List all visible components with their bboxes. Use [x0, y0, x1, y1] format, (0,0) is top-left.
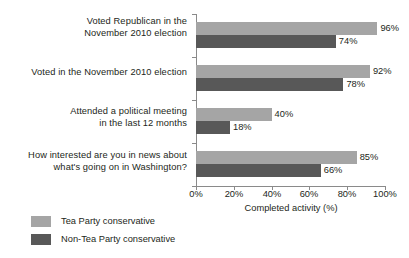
- legend-label: Tea Party conservative: [61, 216, 155, 226]
- category-label-3-line-1: what's going on in Washington?: [0, 161, 187, 173]
- x-axis-title: Completed activity (%): [196, 203, 386, 213]
- y-axis-tick: [192, 57, 196, 58]
- y-axis-tick: [192, 14, 196, 15]
- x-tick-label-0: 0%: [176, 189, 216, 199]
- bar-series-0-cat-2: [196, 108, 272, 121]
- category-label-2-line-1: in the last 12 months: [0, 117, 187, 129]
- bar-value-series-1-cat-0: 74%: [339, 35, 358, 48]
- bar-series-1-cat-0: [196, 35, 336, 48]
- category-label-2: Attended a political meeting in the last…: [0, 105, 187, 129]
- category-label-0-line-0: Voted Republican in the: [0, 15, 187, 27]
- category-label-1-line-0: Voted in the November 2010 election: [0, 66, 187, 78]
- x-tick-label-3: 60%: [289, 189, 329, 199]
- category-label-1: Voted in the November 2010 election: [0, 66, 187, 78]
- x-tick-label-2: 40%: [252, 189, 292, 199]
- legend-label: Non-Tea Party conservative: [61, 234, 175, 244]
- bar-series-0-cat-1: [196, 65, 370, 78]
- chart-legend: Tea Party conservative Non-Tea Party con…: [31, 214, 175, 250]
- bar-value-series-0-cat-3: 85%: [360, 151, 379, 164]
- legend-swatch-icon: [31, 216, 51, 227]
- category-label-0: Voted Republican in the November 2010 el…: [0, 15, 187, 39]
- legend-swatch-icon: [31, 234, 51, 245]
- bar-series-0-cat-3: [196, 151, 357, 164]
- bar-series-1-cat-2: [196, 121, 230, 134]
- category-label-0-line-1: November 2010 election: [0, 27, 187, 39]
- legend-item-tea-party: Tea Party conservative: [31, 214, 175, 228]
- bar-value-series-1-cat-2: 18%: [233, 121, 252, 134]
- bar-chart: Voted Republican in the November 2010 el…: [0, 0, 409, 258]
- x-tick-label-4: 80%: [327, 189, 367, 199]
- legend-item-non-tea-party: Non-Tea Party conservative: [31, 232, 175, 246]
- bar-series-1-cat-1: [196, 78, 343, 91]
- category-label-2-line-0: Attended a political meeting: [0, 105, 187, 117]
- bar-value-series-0-cat-2: 40%: [275, 108, 294, 121]
- y-axis-tick: [192, 100, 196, 101]
- bar-series-1-cat-3: [196, 164, 321, 177]
- x-tick-label-1: 20%: [214, 189, 254, 199]
- category-label-3: How interested are you in news about wha…: [0, 149, 187, 173]
- category-axis-labels: Voted Republican in the November 2010 el…: [0, 0, 192, 186]
- bar-series-0-cat-0: [196, 22, 377, 35]
- bar-value-series-0-cat-1: 92%: [373, 65, 392, 78]
- bar-value-series-1-cat-3: 66%: [324, 164, 343, 177]
- x-axis-line: [196, 186, 386, 187]
- bar-value-series-1-cat-1: 78%: [346, 78, 365, 91]
- category-label-3-line-0: How interested are you in news about: [0, 149, 187, 161]
- x-tick-label-5: 100%: [365, 189, 405, 199]
- bar-value-series-0-cat-0: 96%: [380, 22, 399, 35]
- plot-area: 96% 74% 92% 78% 40% 18% 85% 66%: [196, 14, 385, 186]
- y-axis-tick: [192, 143, 196, 144]
